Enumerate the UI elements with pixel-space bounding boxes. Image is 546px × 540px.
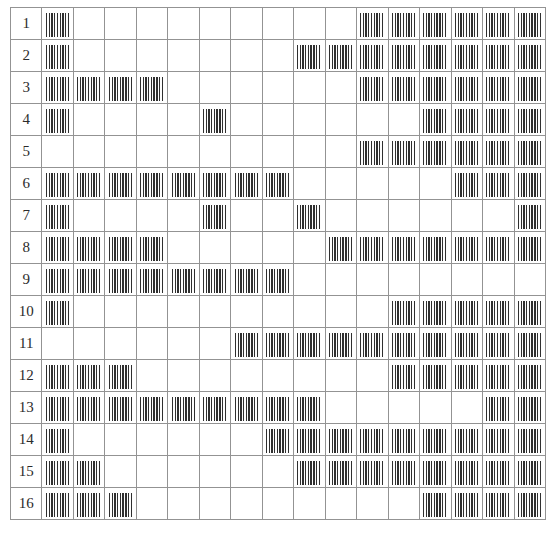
striped-block-icon [455,365,479,389]
matrix-cell-r2-c9 [294,40,325,72]
matrix-cell-r16-c9 [294,488,325,520]
matrix-cell-r5-c9 [294,136,325,168]
striped-block-icon [77,237,101,261]
matrix-cell-r9-c7 [231,264,262,296]
matrix-cell-r9-c5 [168,264,199,296]
matrix-cell-r15-c16 [514,456,546,488]
empty-cell [263,40,293,71]
matrix-cell-r5-c10 [325,136,356,168]
matrix-cell-r1-c7 [231,8,262,40]
matrix-cell-r3-c10 [325,72,356,104]
striped-block-icon [46,429,70,453]
striped-block-icon [423,333,447,357]
striped-block-icon [486,13,510,37]
matrix-cell-r16-c10 [325,488,356,520]
matrix-cell-r14-c9 [294,424,325,456]
matrix-cell-r13-c7 [231,392,262,424]
matrix-cell-r12-c7 [231,360,262,392]
table-row: 3 [11,72,546,104]
matrix-cell-r7-c9 [294,200,325,232]
empty-cell [231,136,261,167]
empty-cell [326,360,356,391]
empty-cell [231,296,261,327]
striped-block-icon [455,13,479,37]
matrix-cell-r12-c5 [168,360,199,392]
row-label-3: 3 [11,72,42,104]
empty-cell [105,456,135,487]
matrix-cell-r14-c15 [483,424,514,456]
empty-cell [74,104,104,135]
empty-cell [42,328,72,359]
empty-cell [515,264,546,295]
empty-cell [263,296,293,327]
striped-block-icon [46,13,70,37]
striped-block-icon [518,397,542,421]
empty-cell [74,136,104,167]
matrix-cell-r2-c8 [262,40,293,72]
matrix-cell-r3-c13 [420,72,451,104]
striped-block-icon [360,333,384,357]
empty-cell [231,360,261,391]
empty-cell [105,424,135,455]
empty-cell [294,232,324,263]
empty-cell [137,456,167,487]
matrix-cell-r14-c4 [136,424,167,456]
table-row: 15 [11,456,546,488]
matrix-cell-r10-c4 [136,296,167,328]
matrix-cell-r10-c8 [262,296,293,328]
striped-block-icon [46,237,70,261]
striped-block-icon [77,397,101,421]
empty-cell [357,168,387,199]
matrix-cell-r3-c2 [73,72,104,104]
striped-block-icon [392,301,416,325]
empty-cell [74,424,104,455]
striped-block-icon [392,13,416,37]
matrix-cell-r2-c13 [420,40,451,72]
matrix-cell-r5-c4 [136,136,167,168]
empty-cell [389,392,419,423]
matrix-cell-r11-c13 [420,328,451,360]
matrix-cell-r15-c6 [199,456,230,488]
matrix-cell-r6-c4 [136,168,167,200]
matrix-cell-r10-c7 [231,296,262,328]
table-row: 13 [11,392,546,424]
matrix-cell-r14-c10 [325,424,356,456]
matrix-cell-r6-c12 [388,168,419,200]
striped-block-icon [46,77,70,101]
empty-cell [137,8,167,39]
striped-block-icon [518,173,542,197]
matrix-cell-r4-c15 [483,104,514,136]
empty-cell [231,488,261,519]
empty-cell [105,296,135,327]
striped-block-icon [109,397,133,421]
matrix-cell-r8-c16 [514,232,546,264]
table-row: 4 [11,104,546,136]
empty-cell [200,8,230,39]
matrix-cell-r4-c5 [168,104,199,136]
empty-cell [200,136,230,167]
empty-cell [452,392,482,423]
matrix-cell-r15-c5 [168,456,199,488]
striped-block-icon [77,365,101,389]
empty-cell [420,392,450,423]
striped-block-icon [203,397,227,421]
table-row: 6 [11,168,546,200]
matrix-cell-r14-c7 [231,424,262,456]
matrix-cell-r7-c12 [388,200,419,232]
matrix-cell-r15-c9 [294,456,325,488]
matrix-cell-r1-c10 [325,8,356,40]
striped-block-icon [235,397,259,421]
striped-block-icon [392,141,416,165]
matrix-cell-r14-c16 [514,424,546,456]
matrix-cell-r8-c10 [325,232,356,264]
matrix-cell-r11-c10 [325,328,356,360]
row-label-16: 16 [11,488,42,520]
empty-cell [420,200,450,231]
matrix-cell-r9-c10 [325,264,356,296]
empty-cell [389,168,419,199]
row-label-7: 7 [11,200,42,232]
striped-block-icon [109,269,133,293]
matrix-cell-r7-c6 [199,200,230,232]
striped-block-icon [423,237,447,261]
empty-cell [200,360,230,391]
